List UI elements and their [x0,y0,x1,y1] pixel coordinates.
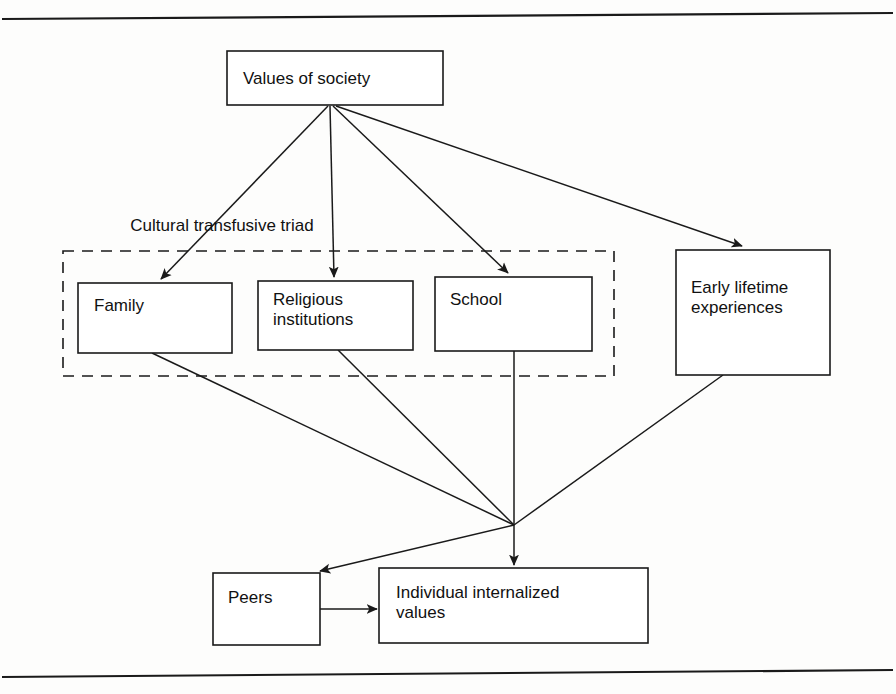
node-peers[interactable]: Peers [213,573,320,645]
edge-early-lifetime-to-junction [514,375,723,525]
node-school[interactable]: School [435,277,592,351]
node-label-values-of-society: Values of society [243,69,371,88]
edge-values-to-family [161,106,328,279]
node-label-school: School [450,290,502,309]
node-label-early-lifetime-line2: experiences [691,298,783,317]
node-early-lifetime-experiences[interactable]: Early lifetime experiences [676,250,830,375]
node-label-family: Family [94,296,145,315]
node-religious-institutions[interactable]: Religious institutions [258,281,413,350]
edge-values-to-school [333,106,508,273]
figure-page: Cultural transfusive triad Values of soc… [0,0,896,694]
page-rule-bottom [2,670,893,677]
node-label-early-lifetime-line1: Early lifetime [691,278,788,297]
group-label-cultural-transfusive-triad: Cultural transfusive triad [130,216,313,235]
edge-junction-to-peers [320,525,514,571]
node-values-of-society[interactable]: Values of society [227,51,443,105]
edge-values-to-early-lifetime [336,106,742,246]
node-label-peers: Peers [228,588,272,607]
edge-family-to-junction [152,353,514,525]
node-label-religious-institutions-line1: Religious [273,290,343,309]
flow-diagram: Cultural transfusive triad Values of soc… [0,0,896,694]
node-label-individual-values-line2: values [396,603,445,622]
node-family[interactable]: Family [78,283,232,353]
node-individual-internalized-values[interactable]: Individual internalized values [379,568,648,643]
page-rule-top [2,13,893,19]
node-label-individual-values-line1: Individual internalized [396,583,560,602]
node-label-religious-institutions-line2: institutions [273,310,353,329]
